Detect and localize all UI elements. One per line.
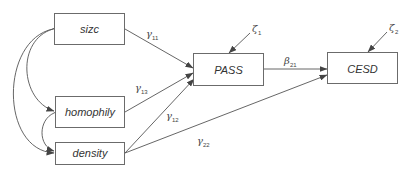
svg-text:22: 22 bbox=[203, 142, 210, 148]
covariance-homophily-density bbox=[42, 113, 54, 151]
label-zeta2: ζ 2 bbox=[389, 22, 399, 35]
node-sizc: sizc bbox=[55, 14, 125, 45]
svg-text:2: 2 bbox=[395, 29, 399, 35]
svg-text:β: β bbox=[283, 55, 290, 66]
path-gamma22 bbox=[125, 75, 327, 153]
covariance-sizc-density bbox=[13, 29, 54, 153]
node-homophily: homophily bbox=[56, 97, 125, 128]
disturbance-zeta1-arrow bbox=[229, 33, 250, 53]
svg-text:21: 21 bbox=[290, 62, 297, 68]
label-gamma12: γ 12 bbox=[166, 110, 179, 123]
node-label: sizc bbox=[80, 23, 99, 35]
node-label: homophily bbox=[65, 106, 117, 118]
label-zeta1: ζ 1 bbox=[252, 23, 262, 36]
node-label: density bbox=[73, 147, 109, 159]
svg-text:11: 11 bbox=[152, 35, 159, 41]
path-diagram: sizc homophily density PASS CESD γ 11 γ … bbox=[0, 0, 410, 185]
label-beta21: β 21 bbox=[283, 55, 297, 68]
node-label: PASS bbox=[214, 64, 243, 76]
label-gamma11: γ 11 bbox=[146, 28, 159, 41]
node-label: CESD bbox=[347, 63, 378, 75]
node-density: density bbox=[56, 143, 125, 165]
node-pass: PASS bbox=[194, 54, 264, 86]
svg-text:13: 13 bbox=[141, 89, 148, 95]
label-gamma22: γ 22 bbox=[197, 135, 210, 148]
svg-text:12: 12 bbox=[172, 117, 179, 123]
label-gamma13: γ 13 bbox=[135, 82, 148, 95]
disturbance-zeta2-arrow bbox=[368, 32, 387, 52]
path-gamma11 bbox=[125, 29, 193, 68]
svg-text:1: 1 bbox=[258, 30, 262, 36]
node-cesd: CESD bbox=[328, 53, 398, 84]
